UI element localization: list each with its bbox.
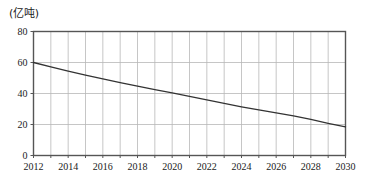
x-axis-tick-label: 2020 — [162, 161, 182, 172]
gridlines — [34, 32, 346, 156]
y-axis-tick-labels: 020406080 — [18, 26, 28, 161]
x-axis-tick-label: 2024 — [232, 161, 252, 172]
chart-container: (亿吨) 020406080 2012201420162018202020222… — [0, 0, 366, 187]
x-axis-tick-label: 2030 — [336, 161, 356, 172]
y-axis-tick-label: 40 — [18, 88, 28, 99]
x-axis-tick-label: 2016 — [93, 161, 113, 172]
x-axis-tick-label: 2014 — [58, 161, 78, 172]
x-axis-tick-label: 2026 — [266, 161, 286, 172]
x-axis-tick-label: 2022 — [197, 161, 217, 172]
x-axis-tick-labels: 2012201420162018202020222024202620282030 — [24, 161, 356, 172]
y-axis-tick-label: 80 — [18, 26, 28, 37]
x-axis-tick-label: 2028 — [301, 161, 321, 172]
axis-lines — [31, 32, 346, 159]
x-axis-tick-label: 2018 — [128, 161, 148, 172]
x-axis-tick-label: 2012 — [24, 161, 44, 172]
y-axis-tick-label: 0 — [23, 150, 28, 161]
y-axis-tick-label: 60 — [18, 57, 28, 68]
line-chart-plot: 020406080 201220142016201820202022202420… — [0, 0, 366, 187]
y-axis-tick-label: 20 — [18, 119, 28, 130]
